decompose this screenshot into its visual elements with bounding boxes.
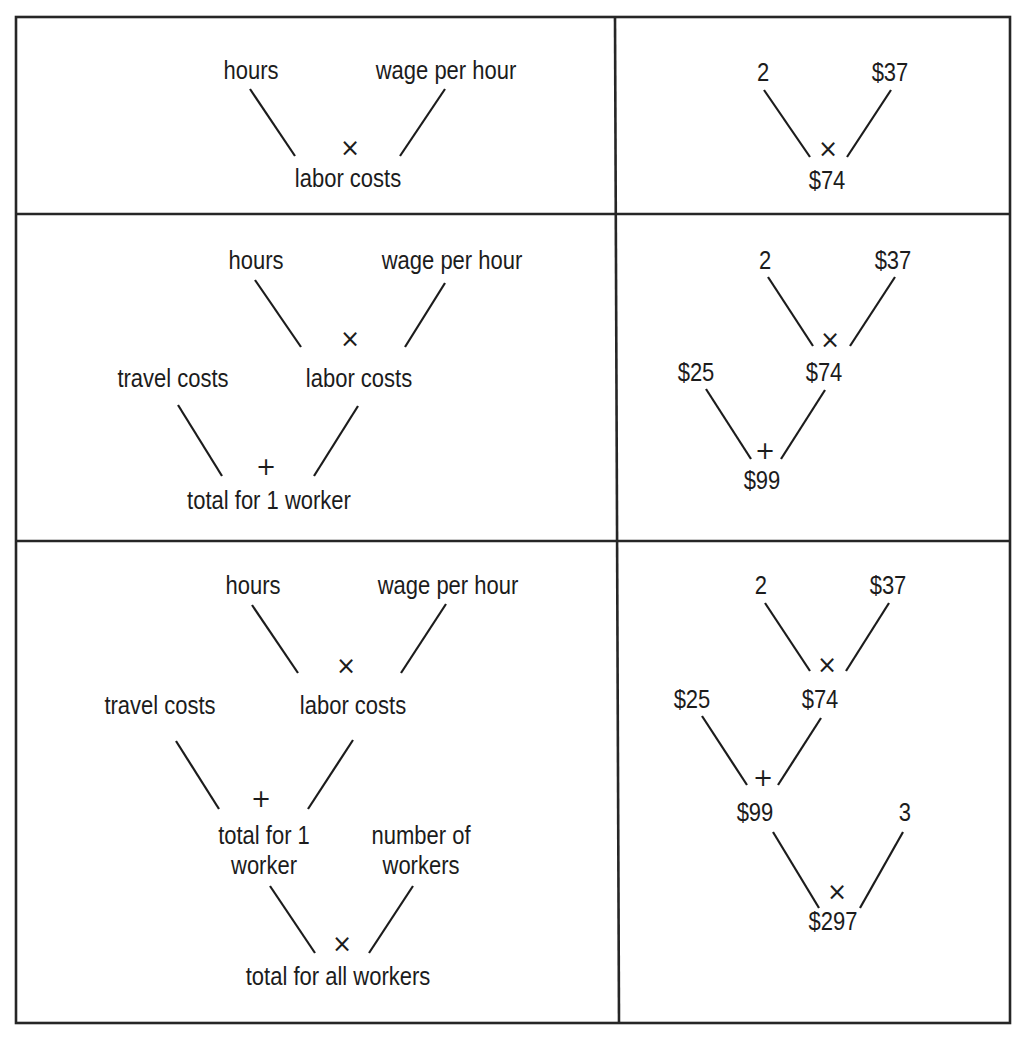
tree-node-total1: total for 1 worker bbox=[187, 487, 351, 515]
diagram-canvas: ×hourswage per hourlabor costs ×2$37$74 … bbox=[0, 0, 1030, 1042]
tree-node-total1-a: total for 1 bbox=[218, 822, 310, 850]
tree-edge bbox=[702, 716, 747, 785]
tree-edge bbox=[401, 604, 446, 673]
tree-node-hours: hours bbox=[223, 57, 278, 85]
table-row: ×+×hourswage per hourtravel costslabor c… bbox=[104, 572, 911, 991]
tree-node-hours-v: 2 bbox=[759, 247, 771, 275]
tree-edge bbox=[778, 718, 821, 785]
tree-node-totalall: total for all workers bbox=[246, 963, 430, 991]
tree-edge bbox=[706, 389, 751, 459]
cell-label-tree: ×+×hourswage per hourtravel costslabor c… bbox=[104, 572, 518, 991]
tree-node-labor-v: $74 bbox=[809, 167, 846, 195]
times-operator-icon: × bbox=[332, 930, 352, 958]
tree-edge bbox=[773, 832, 819, 908]
tree-node-travel: travel costs bbox=[117, 365, 228, 393]
cell-value-tree: ×+×2$37$25$74$993$297 bbox=[674, 572, 911, 936]
tree-node-hours: hours bbox=[225, 572, 280, 600]
tree-node-wage-v: $37 bbox=[872, 59, 909, 87]
tree-node-travel-v: $25 bbox=[678, 359, 715, 387]
tree-node-wage-v: $37 bbox=[870, 572, 907, 600]
expression-tree-table: ×hourswage per hourlabor costs ×2$37$74 … bbox=[0, 0, 1030, 1042]
tree-node-nworkers-b: workers bbox=[382, 852, 460, 880]
tree-node-hours-v: 2 bbox=[755, 572, 767, 600]
plus-operator-icon: + bbox=[755, 437, 775, 465]
cell-value-tree: ×+2$37$25$74$99 bbox=[678, 247, 912, 495]
tree-node-hours-v: 2 bbox=[757, 59, 769, 87]
tree-node-hours: hours bbox=[228, 247, 283, 275]
tree-node-total1-v: $99 bbox=[737, 799, 774, 827]
times-operator-icon: × bbox=[340, 134, 360, 162]
tree-edge bbox=[846, 603, 889, 671]
tree-node-nworkers-v: 3 bbox=[899, 799, 911, 827]
plus-operator-icon: + bbox=[753, 764, 773, 792]
times-operator-icon: × bbox=[820, 326, 840, 354]
plus-operator-icon: + bbox=[251, 785, 271, 813]
cell-label-tree: ×hourswage per hourlabor costs bbox=[223, 57, 516, 193]
table-grid bbox=[16, 17, 1010, 1023]
tree-node-travel: travel costs bbox=[104, 692, 215, 720]
table-row: ×hourswage per hourlabor costs ×2$37$74 bbox=[223, 57, 908, 195]
column-divider bbox=[615, 17, 619, 1023]
tree-edge bbox=[781, 390, 825, 459]
tree-edge bbox=[178, 405, 222, 476]
tree-edge bbox=[252, 605, 298, 673]
tree-edge bbox=[369, 886, 413, 953]
tree-node-labor: labor costs bbox=[300, 692, 406, 720]
tree-node-wage: wage per hour bbox=[375, 57, 517, 85]
tree-edge bbox=[765, 603, 810, 671]
times-operator-icon: × bbox=[340, 325, 360, 353]
cell-value-tree: ×2$37$74 bbox=[757, 59, 908, 195]
tree-edge bbox=[400, 89, 445, 156]
times-operator-icon: × bbox=[817, 651, 837, 679]
tree-edge bbox=[255, 280, 301, 347]
tree-node-totalall-v: $297 bbox=[809, 908, 858, 936]
tree-node-travel-v: $25 bbox=[674, 686, 711, 714]
table-row: ×+hourswage per hourtravel costslabor co… bbox=[117, 247, 911, 515]
tree-node-labor-v: $74 bbox=[802, 686, 839, 714]
times-operator-icon: × bbox=[818, 135, 838, 163]
tree-edge bbox=[405, 283, 445, 347]
tree-edge bbox=[314, 406, 358, 476]
tree-node-wage-v: $37 bbox=[875, 247, 912, 275]
tree-node-labor-v: $74 bbox=[806, 359, 843, 387]
tree-node-wage: wage per hour bbox=[377, 572, 519, 600]
tree-node-total1-b: worker bbox=[230, 852, 297, 880]
tree-node-total1-v: $99 bbox=[744, 467, 781, 495]
tree-edge bbox=[270, 886, 315, 953]
tree-edge bbox=[768, 277, 813, 346]
tree-edge bbox=[308, 740, 353, 809]
cell-label-tree: ×+hourswage per hourtravel costslabor co… bbox=[117, 247, 522, 515]
plus-operator-icon: + bbox=[256, 453, 276, 481]
table-border bbox=[16, 17, 1010, 1023]
tree-edge bbox=[850, 277, 895, 346]
tree-node-labor: labor costs bbox=[295, 165, 401, 193]
times-operator-icon: × bbox=[336, 652, 356, 680]
tree-edge bbox=[176, 741, 219, 809]
tree-node-nworkers-a: number of bbox=[372, 822, 471, 850]
tree-node-labor: labor costs bbox=[306, 365, 412, 393]
tree-edge bbox=[860, 832, 903, 908]
tree-edge bbox=[764, 90, 810, 157]
times-operator-icon: × bbox=[827, 878, 847, 906]
tree-edge bbox=[250, 89, 295, 156]
tree-node-wage: wage per hour bbox=[381, 247, 523, 275]
tree-edge bbox=[847, 90, 891, 157]
